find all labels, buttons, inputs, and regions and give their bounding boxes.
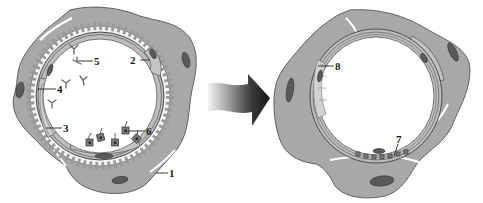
nucleus-icon: [95, 154, 113, 159]
label-8: 8: [335, 60, 341, 72]
label-5: 5: [94, 55, 100, 67]
label-1: 1: [169, 167, 175, 179]
arrow-right-icon: [208, 74, 270, 126]
left-vessel: 1 2 3 4 5 6: [13, 7, 196, 193]
nucleus-icon: [373, 149, 385, 154]
label-4: 4: [57, 83, 63, 95]
label-2: 2: [130, 54, 136, 66]
label-6: 6: [146, 125, 152, 137]
vessel-transformation-diagram: 1 2 3 4 5 6: [0, 0, 483, 203]
label-3: 3: [63, 122, 69, 134]
transition-arrow: [208, 74, 270, 126]
right-vessel: 8 7: [274, 10, 470, 198]
label-7: 7: [396, 133, 402, 145]
